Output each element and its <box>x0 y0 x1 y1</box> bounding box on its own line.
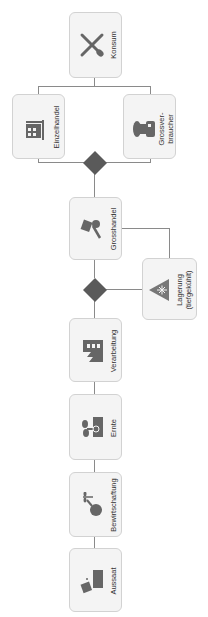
seed-planting-icon <box>79 568 105 594</box>
node-bewirtschaftung[interactable]: Bewirtschaftung <box>69 472 122 537</box>
connector-grossverbraucher-join <box>150 86 151 94</box>
connector-gateway-lagerung <box>104 289 142 290</box>
node-grossverbraucher[interactable]: Grossver- braucher <box>123 94 176 159</box>
node-label: Ernte <box>109 419 118 437</box>
connector-gateway-right <box>104 162 150 163</box>
connector-einzelhandel-join <box>38 86 39 94</box>
node-lagerung[interactable]: Lagerung (tiefgekühlt) <box>142 258 197 320</box>
fork-knife-icon <box>78 31 106 59</box>
connector-verarbeitung-gateway <box>94 300 95 318</box>
connector-bewirtschaftung-ernte <box>94 460 95 472</box>
node-grosshandel[interactable]: Grosshandel <box>69 197 122 260</box>
store-shelf-icon <box>22 116 48 142</box>
node-label-line2: (tiefgekühlt) <box>184 270 193 309</box>
connector-join-konsum <box>94 78 95 86</box>
connector-gateway-left <box>38 162 84 163</box>
node-label-line2: braucher <box>166 114 175 144</box>
chef-icon <box>131 116 157 142</box>
gateway-lower <box>82 277 106 301</box>
connector-lagerung-up <box>169 228 170 258</box>
node-label: Konsum <box>109 31 118 59</box>
sprout-icon <box>79 415 105 441</box>
node-label: Einzelhandel <box>52 106 61 149</box>
connector-lagerung-grosshandel <box>122 228 170 229</box>
connector-gateway-grosshandel <box>94 260 95 278</box>
factory-icon <box>79 338 105 364</box>
connector-grosshandel-gateway <box>94 172 95 197</box>
node-label: Bewirtschaftung <box>109 478 118 531</box>
watering-can-icon <box>79 492 105 518</box>
node-aussaat[interactable]: Aussaat <box>69 548 122 612</box>
connector-aussaat-bewirtschaftung <box>94 537 95 548</box>
node-label: Aussaat <box>109 567 118 594</box>
gateway-upper <box>82 150 106 174</box>
node-label: Verarbeitung <box>109 330 118 373</box>
node-konsum[interactable]: Konsum <box>69 12 122 78</box>
hand-truck-icon <box>79 215 105 241</box>
node-einzelhandel[interactable]: Einzelhandel <box>12 94 65 159</box>
snowflake-triangle-icon <box>148 278 170 302</box>
node-ernte[interactable]: Ernte <box>69 394 122 460</box>
node-verarbeitung[interactable]: Verarbeitung <box>69 318 122 382</box>
node-label: Grosshandel <box>109 208 118 251</box>
node-label-line1: Lagerung <box>175 274 184 306</box>
node-label-line1: Grossver- <box>157 113 166 146</box>
connector-ernte-verarbeitung <box>94 382 95 394</box>
connector-join <box>38 86 151 87</box>
